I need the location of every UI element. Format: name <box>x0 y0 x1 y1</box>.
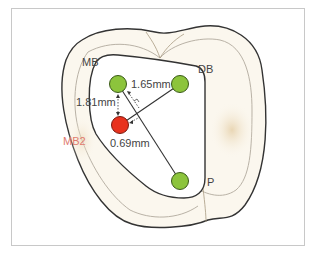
canal-p-circle <box>172 173 189 190</box>
canal-mb-circle <box>110 76 127 93</box>
label-mb2: MB2 <box>63 135 86 147</box>
label-mb: MB <box>82 56 99 68</box>
measurement-mb-db: 1.65mm <box>131 78 171 90</box>
measurement-mb-mb2: 1.81mm <box>76 96 116 108</box>
tooth-diagram: MB DB MB2 P 1.65mm 1.81mm 0.69mm <box>0 0 316 257</box>
label-p: P <box>207 176 214 188</box>
measurement-mb2-line: 0.69mm <box>110 137 150 149</box>
canal-db-circle <box>172 76 189 93</box>
tooth-shading <box>210 102 254 158</box>
canal-mb2-circle <box>112 117 129 134</box>
label-db: DB <box>198 63 213 75</box>
